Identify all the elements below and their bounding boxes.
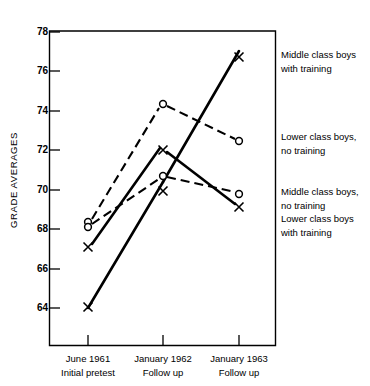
legend-label-middle-class-with-training: Middle class boys with training	[281, 48, 356, 75]
legend-label-lower-class-with-training: Lower class boys with training	[281, 212, 354, 239]
legend-label-lower-class-no-training: Lower class boys, no training	[281, 130, 357, 157]
series-lower-class-with-training	[84, 146, 244, 252]
y-axis-ticks	[50, 32, 61, 308]
legend-label-2-line2: no training	[281, 144, 357, 158]
legend-label-4-line2: with training	[281, 226, 354, 240]
x-axis-ticks	[88, 335, 239, 346]
marker-x-group	[84, 146, 244, 252]
legend-label-3-line1: Middle class boys,	[281, 185, 359, 199]
x-tick-label-3-line2: Follow up	[179, 366, 299, 380]
legend-label-3-line2: no training	[281, 199, 359, 213]
chart-figure: GRADE AVERAGES 78 76 74 72 70 68 66 64	[0, 0, 370, 386]
series-lower-class-no-training	[85, 101, 243, 226]
legend-label-4-line1: Lower class boys	[281, 212, 354, 226]
x-tick-label-3: January 1963 Follow up	[179, 352, 299, 379]
x-tick-label-3-line1: January 1963	[179, 352, 299, 366]
legend-label-middle-class-no-training: Middle class boys, no training	[281, 185, 359, 212]
axes-frame	[50, 31, 276, 346]
series-middle-class-with-training	[84, 51, 244, 312]
marker-circle-group	[85, 101, 243, 226]
legend-label-2-line1: Lower class boys,	[281, 130, 357, 144]
legend-label-1-line1: Middle class boys	[281, 48, 356, 62]
legend-label-1-line2: with training	[281, 62, 356, 76]
